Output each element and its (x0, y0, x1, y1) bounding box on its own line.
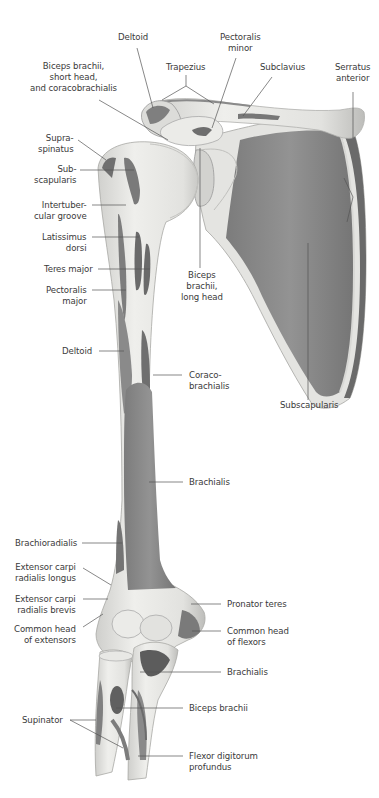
radius-ulna (95, 642, 178, 780)
humerus (96, 142, 205, 662)
label-common-head-extensors: Common head of extensors (14, 624, 76, 646)
label-subscapularis-scapula: Subscapularis (280, 400, 338, 411)
label-ecr-brevis: Extensor carpi radialis brevis (15, 594, 76, 616)
label-trapezius: Trapezius (166, 62, 205, 73)
label-ecr-longus: Extensor carpi radialis longus (15, 562, 76, 584)
label-brachialis-humerus: Brachialis (189, 477, 230, 488)
label-supraspinatus: Supra- spinatus (38, 133, 74, 155)
label-flexor-digitorum-profundus: Flexor digitorum profundus (189, 751, 258, 773)
trochlea (140, 615, 172, 641)
label-pectoralis-major: Pectoralis major (46, 285, 87, 307)
label-biceps-brachii: Biceps brachii (189, 703, 248, 714)
label-brachialis-ulna: Brachialis (227, 667, 268, 678)
label-common-head-flexors: Common head of flexors (227, 626, 289, 648)
label-deltoid-top: Deltoid (118, 32, 148, 43)
arm-bone-illustration (0, 0, 379, 798)
label-brachioradialis: Brachioradialis (15, 538, 77, 549)
label-serratus-anterior: Serratus anterior (335, 62, 370, 84)
label-pronator-teres: Pronator teres (227, 599, 287, 610)
label-biceps-short-head: Biceps brachii, short head, and coracobr… (30, 61, 117, 94)
label-pectoralis-minor: Pectoralis minor (220, 32, 261, 54)
label-teres-major: Teres major (44, 264, 93, 275)
capitulum (112, 610, 144, 638)
biceps-tuberosity (110, 686, 124, 714)
label-subclavius: Subclavius (260, 62, 305, 73)
brachialis-humerus-attachment (124, 383, 176, 590)
scapula (195, 120, 366, 408)
label-latissimus-dorsi: Latissimus dorsi (42, 232, 86, 254)
label-deltoid-mid: Deltoid (62, 346, 92, 357)
label-supinator: Supinator (22, 715, 63, 726)
label-biceps-long-head: Biceps brachii, long head (181, 270, 223, 303)
label-subscapularis-humerus: Sub- scapularis (34, 164, 76, 186)
label-intertubercular-groove: Intertuber- cular groove (34, 200, 87, 222)
label-coracobrachialis: Coraco- brachialis (189, 370, 229, 392)
